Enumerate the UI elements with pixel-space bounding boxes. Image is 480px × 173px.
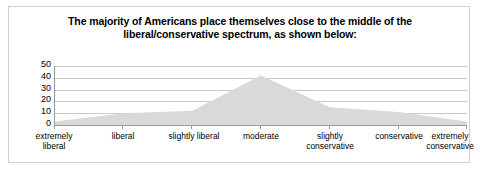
- chart-title-line-1: The majority of Americans place themselv…: [37, 15, 443, 28]
- y-axis-tick-labels: 50 40 30 20 10 0: [27, 59, 51, 131]
- x-category-label-extremely-conservative-line-2: conservative: [421, 141, 479, 151]
- y-tick-label-50: 50: [27, 59, 51, 69]
- y-tick-label-0: 0: [27, 118, 51, 128]
- x-tick-1: [122, 125, 123, 129]
- y-tick-label-40: 40: [27, 71, 51, 81]
- x-category-label-slightly-conservative-line-2: conservative: [287, 141, 373, 151]
- y-tick-label-10: 10: [27, 106, 51, 116]
- chart-plot-area: [55, 66, 467, 125]
- x-category-label-extremely-conservative-line-1: extremely: [421, 131, 479, 141]
- x-tick-4: [329, 125, 330, 129]
- ideology-distribution-area-series: [55, 66, 467, 125]
- y-tick-label-20: 20: [27, 94, 51, 104]
- x-tick-6: [466, 125, 467, 129]
- x-tick-0: [54, 125, 55, 129]
- x-tick-2: [191, 125, 192, 129]
- x-tick-3: [260, 125, 261, 129]
- chart-figure-frame: The majority of Americans place themselv…: [8, 6, 470, 163]
- chart-title: The majority of Americans place themselv…: [37, 15, 443, 41]
- chart-title-line-2: liberal/conservative spectrum, as shown …: [37, 28, 443, 41]
- x-category-label-extremely-liberal-line-2: liberal: [13, 141, 95, 151]
- x-tick-5: [398, 125, 399, 129]
- y-tick-label-30: 30: [27, 83, 51, 93]
- x-category-label-extremely-conservative: extremely conservative: [421, 131, 479, 151]
